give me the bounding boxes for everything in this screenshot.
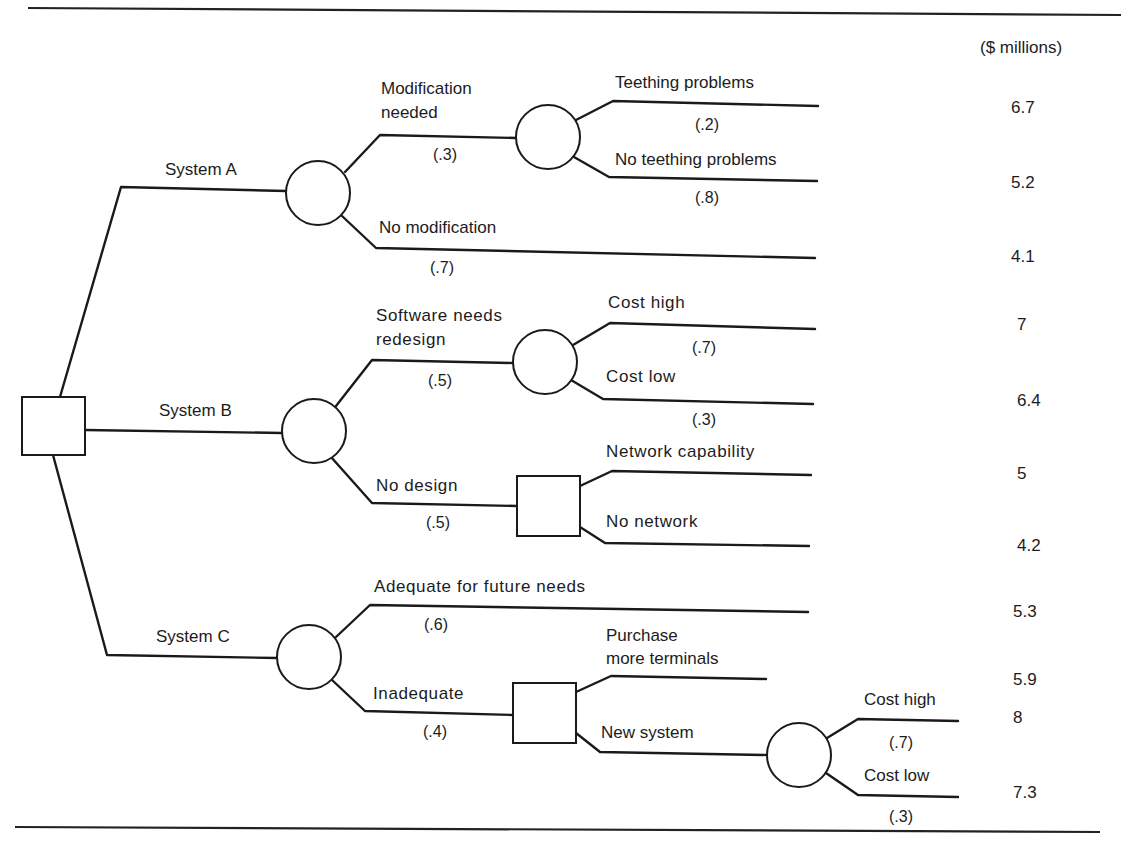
payoff-teething: 6.7 [1011, 98, 1035, 118]
prob-cost-low-b: (.3) [692, 411, 716, 429]
decision-node-inadequate [513, 683, 576, 743]
branch-system-b [85, 430, 282, 433]
bottom-rule [15, 827, 1100, 832]
decision-tree-diagram [0, 0, 1121, 843]
chance-node-system-b [282, 399, 346, 463]
label-software-redesign-2: redesign [376, 330, 446, 350]
branch-adequate [336, 605, 808, 637]
chance-node-new-system-cost [767, 723, 831, 787]
payoff-cost-low-c: 7.3 [1013, 783, 1037, 803]
chance-node-system-c [277, 625, 341, 689]
root-decision-node [22, 397, 85, 455]
prob-teething-problems: (.2) [695, 116, 719, 134]
payoff-no-modification: 4.1 [1011, 247, 1035, 267]
label-new-system: New system [601, 723, 694, 743]
label-cost-low-b: Cost low [606, 367, 676, 387]
label-cost-low-c: Cost low [864, 766, 929, 786]
prob-cost-high-b: (.7) [692, 339, 716, 357]
payoff-cost-low-b: 6.4 [1017, 391, 1041, 411]
payoff-cost-high-b: 7 [1017, 315, 1026, 335]
prob-modification-needed: (.3) [433, 146, 457, 164]
prob-no-modification: (.7) [430, 259, 454, 277]
label-cost-high-b: Cost high [608, 293, 685, 313]
prob-cost-low-c: (.3) [889, 808, 913, 826]
label-purchase-terminals-1: Purchase [606, 626, 678, 646]
payoff-network-capability: 5 [1017, 464, 1026, 484]
prob-no-design: (.5) [426, 514, 450, 532]
prob-inadequate: (.4) [423, 723, 447, 741]
label-no-modification: No modification [379, 218, 496, 238]
label-cost-high-c: Cost high [864, 690, 936, 710]
chance-node-teething [516, 105, 580, 169]
label-no-network: No network [606, 512, 698, 532]
label-modification-needed-1: Modification [381, 79, 472, 99]
label-modification-needed-2: needed [381, 103, 438, 123]
branch-software-redesign [336, 360, 513, 406]
label-teething-problems: Teething problems [615, 73, 754, 93]
label-no-teething-problems: No teething problems [615, 150, 777, 170]
payoff-no-network: 4.2 [1017, 536, 1041, 556]
label-purchase-terminals-2: more terminals [606, 649, 718, 669]
prob-no-teething-problems: (.8) [695, 189, 719, 207]
branch-network-capability [580, 471, 811, 486]
label-system-a: System A [165, 160, 237, 180]
payoff-adequate: 5.3 [1013, 602, 1037, 622]
label-system-b: System B [159, 401, 232, 421]
branch-modification-needed [345, 135, 516, 172]
branch-purchase-terminals [576, 676, 766, 692]
branch-system-a [60, 187, 286, 397]
prob-cost-high-c: (.7) [889, 734, 913, 752]
chance-node-software-cost [513, 330, 577, 394]
payoff-cost-high-c: 8 [1013, 708, 1022, 728]
payoff-no-teething: 5.2 [1011, 173, 1035, 193]
chance-node-system-a [286, 161, 350, 225]
label-adequate: Adequate for future needs [374, 577, 586, 597]
prob-adequate: (.6) [424, 616, 448, 634]
label-inadequate: Inadequate [373, 684, 464, 704]
units-label: ($ millions) [980, 38, 1062, 58]
label-system-c: System C [156, 627, 230, 647]
top-rule [28, 8, 1121, 15]
payoff-purchase-terminals: 5.9 [1013, 670, 1037, 690]
label-network-capability: Network capability [606, 442, 755, 462]
label-software-redesign-1: Software needs [376, 306, 503, 326]
prob-software-redesign: (.5) [428, 372, 452, 390]
label-no-design: No design [376, 476, 458, 496]
decision-node-network [517, 476, 580, 536]
